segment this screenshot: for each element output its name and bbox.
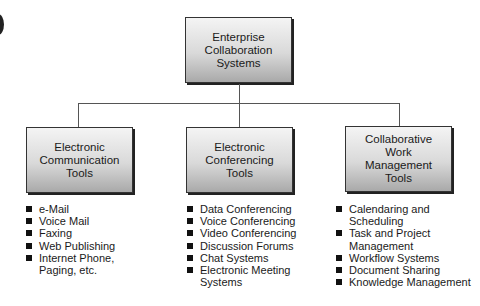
communication-tools-list: e-Mail Voice Mail Faxing Web Publishing … <box>26 203 156 276</box>
connector-horizontal <box>78 103 400 104</box>
branch-label: Electronic Conferencing Tools <box>205 141 273 180</box>
edge-circle-icon <box>0 14 4 35</box>
bullet-icon <box>26 255 32 261</box>
branch-label: Electronic Communication Tools <box>40 141 120 180</box>
bullet-icon <box>336 267 342 273</box>
bullet-icon <box>336 230 342 236</box>
branch-node-communication: Electronic Communication Tools <box>26 127 133 193</box>
branch-node-work-management: Collaborative Work Management Tools <box>345 126 452 192</box>
root-node: Enterprise Collaboration Systems <box>185 17 292 83</box>
list-item: Voice Mail <box>26 215 156 227</box>
conferencing-tools-list: Data Conferencing Voice Conferencing Vid… <box>187 203 327 288</box>
bullet-icon <box>336 255 342 261</box>
bullet-icon <box>336 206 342 212</box>
list-item: Knowledge Management <box>336 276 480 288</box>
connector-root-down <box>239 84 240 127</box>
list-item: Data Conferencing <box>187 203 327 215</box>
bullet-icon <box>187 218 193 224</box>
list-item: Task and Project Management <box>336 227 449 251</box>
list-item: Discussion Forums <box>187 240 327 252</box>
root-node-label: Enterprise Collaboration Systems <box>205 31 273 70</box>
bullet-icon <box>26 206 32 212</box>
bullet-icon <box>26 218 32 224</box>
connector-left-down <box>78 103 79 127</box>
list-item: Voice Conferencing <box>187 215 327 227</box>
bullet-icon <box>336 279 342 285</box>
list-item: Calendaring and Scheduling <box>336 203 459 227</box>
bullet-icon <box>187 243 193 249</box>
branch-label: Collaborative Work Management Tools <box>365 133 432 185</box>
list-item: Document Sharing <box>336 264 480 276</box>
bullet-icon <box>187 206 193 212</box>
bullet-icon <box>187 267 193 273</box>
list-item: Workflow Systems <box>336 252 480 264</box>
work-management-tools-list: Calendaring and Scheduling Task and Proj… <box>336 203 480 288</box>
bullet-icon <box>26 230 32 236</box>
bullet-icon <box>187 230 193 236</box>
bullet-icon <box>187 255 193 261</box>
list-item: Video Conferencing <box>187 227 327 239</box>
connector-right-down <box>399 103 400 126</box>
list-item: Electronic Meeting Systems <box>187 264 312 288</box>
list-item: Internet Phone, Paging, etc. <box>26 252 127 276</box>
list-item: e-Mail <box>26 203 156 215</box>
bullet-icon <box>26 243 32 249</box>
branch-node-conferencing: Electronic Conferencing Tools <box>186 127 293 193</box>
list-item: Web Publishing <box>26 240 156 252</box>
list-item: Faxing <box>26 227 156 239</box>
list-item: Chat Systems <box>187 252 327 264</box>
